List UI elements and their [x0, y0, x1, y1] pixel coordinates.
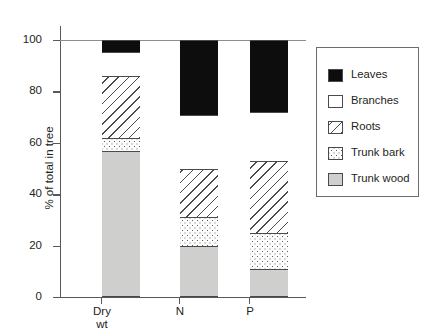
y-tick-label-100: 100: [23, 34, 42, 46]
y-tick-40: 40: [53, 194, 60, 195]
bar-segment: [102, 151, 141, 297]
chart-figure: % of total in tree 100 80 60 40 20 0 Dry…: [0, 0, 432, 336]
bar-segment: [250, 269, 289, 297]
y-tick-label-60: 60: [29, 137, 42, 149]
legend-item-roots[interactable]: Roots: [328, 114, 418, 140]
bar-dry-wt[interactable]: [102, 40, 140, 297]
bar-segment: [102, 138, 141, 151]
bar-p[interactable]: [250, 40, 288, 297]
x-tick-n: [179, 297, 180, 304]
bar-segment: [250, 40, 289, 112]
y-tick-0: 0: [53, 297, 60, 298]
x-label-n: N: [160, 305, 200, 318]
y-tick-60: 60: [53, 143, 60, 144]
plot-area: 100 80 60 40 20 0: [60, 40, 300, 297]
bar-segment: [180, 217, 219, 245]
x-axis-line: [60, 297, 306, 298]
bar-segment: [250, 161, 289, 233]
y-tick-20: 20: [53, 246, 60, 247]
bar-n[interactable]: [180, 40, 218, 297]
bar-segment: [180, 115, 219, 169]
legend-label-trunk-wood: Trunk wood: [351, 173, 410, 184]
legend-label-leaves: Leaves: [351, 69, 387, 80]
legend-label-branches: Branches: [351, 95, 399, 106]
bar-segment: [102, 76, 141, 138]
x-tick-p: [249, 297, 250, 304]
bar-segment: [180, 40, 219, 115]
bar-segment: [102, 40, 141, 52]
legend-swatch-leaves-icon: [328, 69, 343, 82]
bar-segment: [250, 233, 289, 269]
y-tick-label-0: 0: [36, 291, 42, 303]
legend-label-trunk-bark: Trunk bark: [351, 147, 405, 158]
legend-label-roots: Roots: [351, 121, 381, 132]
bar-segment: [180, 169, 219, 218]
legend-item-branches[interactable]: Branches: [328, 88, 418, 114]
x-label-dry-wt: Dry wt: [82, 305, 122, 330]
legend-swatch-trunk-wood-icon: [328, 173, 343, 186]
x-tick-dry-wt: [101, 297, 102, 304]
y-tick-label-40: 40: [29, 188, 42, 200]
bar-segment: [180, 246, 219, 297]
y-tick-80: 80: [53, 91, 60, 92]
legend: Leaves Branches Roots Trunk bark Trunk w…: [316, 47, 419, 197]
bar-segment: [250, 112, 289, 161]
y-tick-label-80: 80: [29, 86, 42, 98]
legend-swatch-roots-icon: [328, 121, 343, 134]
x-label-p: P: [230, 305, 270, 318]
legend-item-trunk-bark[interactable]: Trunk bark: [328, 140, 418, 166]
legend-swatch-branches-icon: [328, 95, 343, 108]
y-axis-label: % of total in tree: [43, 126, 55, 209]
legend-item-trunk-wood[interactable]: Trunk wood: [328, 166, 418, 192]
legend-swatch-trunk-bark-icon: [328, 147, 343, 160]
y-tick-label-20: 20: [29, 240, 42, 252]
bar-segment: [102, 52, 141, 76]
legend-item-leaves[interactable]: Leaves: [328, 62, 418, 88]
y-tick-100: 100: [53, 40, 60, 41]
